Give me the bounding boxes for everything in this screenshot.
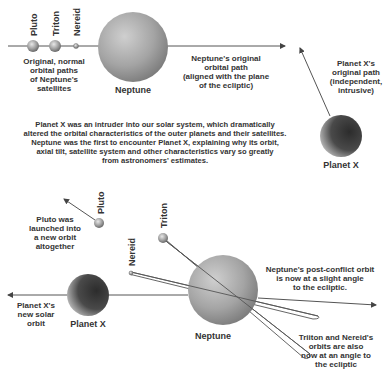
neptune-top-label: Neptune [115, 85, 151, 95]
svg-text:new solar: new solar [18, 310, 55, 319]
svg-text:to the ecliptic.: to the ecliptic. [293, 283, 347, 292]
neptune-bottom [188, 255, 258, 325]
nereid-top-label: Nereid [72, 8, 82, 36]
triton-bottom [158, 233, 168, 243]
svg-text:(independent,: (independent, [330, 77, 382, 86]
pluto-top [27, 40, 39, 52]
svg-text:orbital paths: orbital paths [30, 66, 79, 75]
svg-text:a new orbit: a new orbit [34, 233, 77, 242]
planetx-original-path-line [300, 48, 330, 116]
triton-top-label: Triton [51, 11, 61, 36]
neptune-post-conflict-orbit [258, 298, 376, 305]
svg-text:Pluto was: Pluto was [36, 215, 74, 224]
planetx-bottom [67, 274, 109, 316]
svg-text:from astronomers' estimates.: from astronomers' estimates. [102, 156, 208, 165]
svg-text:altered the orbital characteri: altered the orbital characteristics of t… [24, 129, 287, 138]
svg-text:axial tilt, satellite system a: axial tilt, satellite system and other c… [36, 147, 274, 156]
pluto-bottom-label: Pluto [96, 191, 106, 214]
svg-text:Planet X's: Planet X's [17, 301, 55, 310]
moons-orbit-caption: Triiton and Nereid's orbits are also now… [299, 333, 374, 369]
top-satellites: Pluto Triton Nereid [27, 8, 82, 52]
svg-text:Triiton and Nereid's: Triiton and Nereid's [299, 333, 374, 342]
svg-text:is now at a slight angle: is now at a slight angle [276, 274, 364, 283]
planetx-path-caption: Planet X's original path (independent, i… [330, 59, 382, 95]
explanation-paragraph: Planet X was an intruder into our solar … [24, 120, 287, 165]
planetx-top-label: Planet X [323, 160, 359, 170]
svg-text:Neptune's original: Neptune's original [191, 54, 260, 63]
nereid-top [74, 44, 79, 49]
svg-text:now at an angle to: now at an angle to [301, 351, 371, 360]
svg-text:Planet X's: Planet X's [337, 59, 375, 68]
svg-text:launched into: launched into [29, 224, 81, 233]
neptune-orbit-caption: Neptune's post-conflict orbit is now at … [266, 265, 375, 292]
pluto-bottom [94, 218, 104, 228]
svg-text:orbital path: orbital path [204, 63, 248, 72]
svg-text:(aligned with the plane: (aligned with the plane [183, 72, 270, 81]
triton-bottom-label: Triton [159, 203, 169, 228]
svg-text:Neptune was the first to encou: Neptune was the first to encounter Plane… [31, 138, 279, 147]
svg-text:altogether: altogether [36, 242, 75, 251]
svg-text:satellites: satellites [37, 84, 72, 93]
svg-text:Planet X was an intruder into: Planet X was an intruder into our solar … [35, 120, 275, 129]
svg-text:original path: original path [332, 68, 380, 77]
svg-text:Original, normal: Original, normal [23, 57, 84, 66]
svg-text:orbit: orbit [27, 319, 45, 328]
neptune-top [98, 12, 168, 82]
pluto-caption: Pluto was launched into a new orbit alto… [29, 215, 81, 251]
svg-text:orbits are also: orbits are also [309, 342, 364, 351]
satellites-caption: Original, normal orbital paths of Neptun… [23, 57, 84, 93]
svg-text:intrusive): intrusive) [338, 86, 374, 95]
pluto-top-label: Pluto [29, 13, 39, 36]
nereid-bottom-label: Nereid [127, 238, 137, 266]
svg-text:the ecliptic: the ecliptic [315, 360, 357, 369]
svg-text:Neptune's post-conflict orbit: Neptune's post-conflict orbit [266, 265, 375, 274]
svg-text:of Neptune's: of Neptune's [30, 75, 79, 84]
nereid-bottom [129, 271, 133, 275]
svg-text:of the ecliptic): of the ecliptic) [199, 81, 254, 90]
planetx-top [320, 115, 362, 157]
neptune-path-caption: Neptune's original orbital path (aligned… [183, 54, 270, 90]
planet-x-diagram: Pluto Triton Nereid Original, normal orb… [0, 0, 387, 375]
triton-top [49, 40, 61, 52]
neptune-bottom-label: Neptune [195, 331, 231, 341]
planetx-bottom-label: Planet X [70, 319, 106, 329]
planetx-new-orbit-caption: Planet X's new solar orbit [17, 301, 55, 328]
